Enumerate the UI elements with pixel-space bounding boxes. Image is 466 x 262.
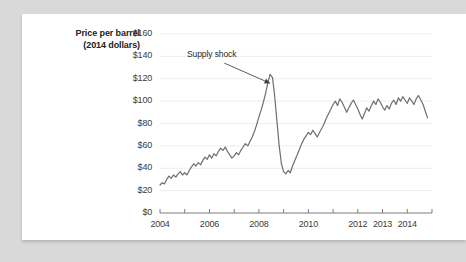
screenshot-root: Price per barrel (2014 dollars) $0$20$40… bbox=[0, 0, 466, 262]
y-tick-label: $40 bbox=[114, 162, 152, 172]
oil-price-chart: Price per barrel (2014 dollars) $0$20$40… bbox=[0, 0, 466, 262]
annotation-leader-line bbox=[224, 63, 270, 83]
x-axis-ticks-group bbox=[160, 209, 432, 213]
x-tick-label: 2010 bbox=[288, 219, 328, 229]
x-tick-label: 2004 bbox=[140, 219, 180, 229]
y-tick-label: $140 bbox=[114, 50, 152, 60]
y-tick-label: $0 bbox=[114, 207, 152, 217]
x-tick-label: 2014 bbox=[387, 219, 427, 229]
y-tick-label: $100 bbox=[114, 95, 152, 105]
y-tick-label: $60 bbox=[114, 140, 152, 150]
x-tick-label: 2008 bbox=[239, 219, 279, 229]
supply-shock-annotation-label: Supply shock bbox=[187, 49, 236, 59]
y-tick-label: $160 bbox=[114, 28, 152, 38]
x-tick-label: 2006 bbox=[189, 219, 229, 229]
y-tick-label: $20 bbox=[114, 185, 152, 195]
supply-shock-annotation-arrow bbox=[224, 63, 270, 83]
y-tick-label: $120 bbox=[114, 73, 152, 83]
y-tick-label: $80 bbox=[114, 118, 152, 128]
